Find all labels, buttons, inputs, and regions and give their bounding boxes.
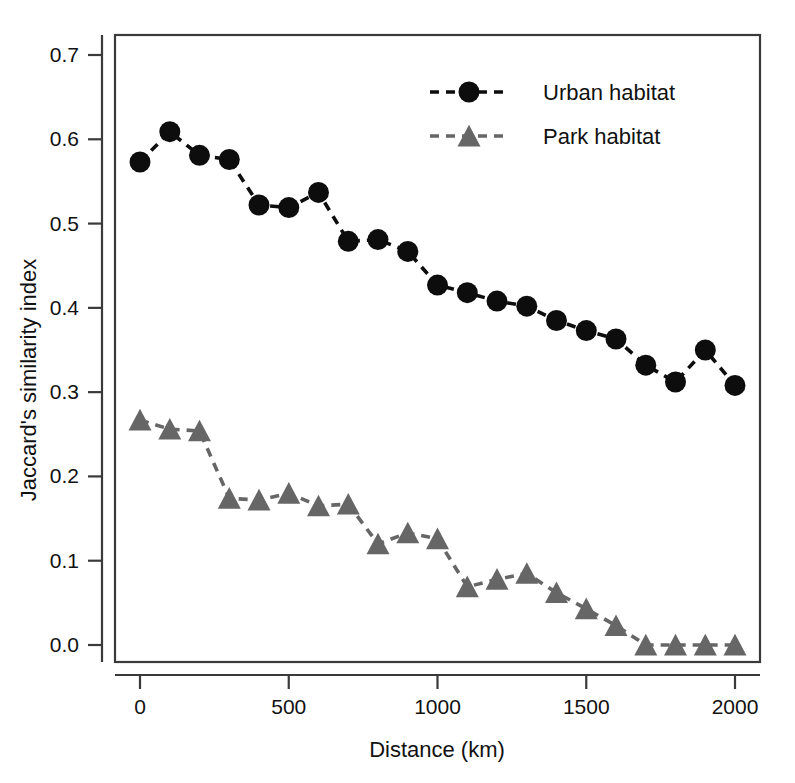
data-series-group: [129, 121, 747, 655]
data-point-park-1400: [545, 582, 568, 604]
data-point-park-600: [307, 495, 330, 517]
data-point-urban-1400: [546, 310, 567, 331]
y-tick-label-0.0: 0.0: [50, 633, 79, 656]
data-point-urban-1000: [427, 275, 448, 296]
series-urban: [130, 121, 746, 396]
legend-circle-icon: [459, 82, 480, 103]
y-tick-label-0.1: 0.1: [50, 549, 79, 572]
data-point-urban-1200: [487, 291, 508, 312]
y-tick-label-0.3: 0.3: [50, 380, 79, 403]
data-point-urban-1100: [457, 282, 478, 303]
plot-border: [115, 35, 760, 662]
data-point-park-900: [396, 522, 419, 544]
legend-item-urban: Urban habitat: [430, 80, 675, 105]
data-point-urban-800: [368, 229, 389, 250]
data-point-park-500: [277, 482, 300, 504]
data-point-urban-1700: [635, 355, 656, 376]
y-tick-label-0.6: 0.6: [50, 127, 79, 150]
jaccard-similarity-line-chart: 0500100015002000 0.00.10.20.30.40.50.60.…: [0, 0, 795, 783]
data-point-park-1700: [634, 634, 657, 656]
data-point-urban-1600: [606, 329, 627, 350]
data-point-urban-100: [159, 121, 180, 142]
data-point-urban-200: [189, 145, 210, 166]
legend-label-urban: Urban habitat: [543, 80, 675, 105]
data-point-park-1600: [605, 614, 628, 636]
data-point-urban-2000: [725, 375, 746, 396]
x-tick-label-1500: 1500: [563, 695, 610, 718]
chart-page: 0500100015002000 0.00.10.20.30.40.50.60.…: [0, 0, 795, 783]
x-axis-ticks: 0500100015002000: [115, 675, 760, 718]
data-point-urban-500: [278, 197, 299, 218]
chart-legend: Urban habitatPark habitat: [430, 80, 675, 149]
data-point-urban-400: [249, 195, 270, 216]
legend-label-park: Park habitat: [543, 124, 660, 149]
legend-triangle-icon: [458, 125, 481, 147]
data-point-park-700: [337, 493, 360, 515]
data-point-urban-0: [130, 152, 151, 173]
data-point-urban-600: [308, 182, 329, 203]
data-point-urban-700: [338, 231, 359, 252]
x-tick-label-1000: 1000: [414, 695, 461, 718]
data-point-urban-1800: [665, 372, 686, 393]
y-tick-label-0.5: 0.5: [50, 212, 79, 235]
data-point-urban-900: [397, 241, 418, 262]
data-point-park-0: [129, 409, 152, 431]
x-tick-label-0: 0: [134, 695, 146, 718]
data-point-park-1200: [486, 568, 509, 590]
y-tick-label-0.7: 0.7: [50, 43, 79, 66]
data-point-urban-1500: [576, 320, 597, 341]
y-axis-ticks: 0.00.10.20.30.40.50.60.7: [50, 35, 102, 662]
x-axis-title: Distance (km): [369, 737, 505, 762]
y-axis-title: Jaccard's similarity index: [16, 259, 41, 502]
data-point-park-400: [248, 489, 271, 511]
legend-item-park: Park habitat: [430, 124, 660, 149]
x-tick-label-500: 500: [271, 695, 306, 718]
plot-frame: [115, 35, 760, 662]
data-point-park-300: [218, 487, 241, 509]
data-point-park-1500: [575, 598, 598, 620]
data-point-urban-300: [219, 149, 240, 170]
y-tick-label-0.4: 0.4: [50, 296, 80, 319]
y-tick-label-0.2: 0.2: [50, 464, 79, 487]
data-point-urban-1300: [516, 296, 537, 317]
data-point-park-1300: [515, 562, 538, 584]
data-point-urban-1900: [695, 340, 716, 361]
series-park: [129, 409, 747, 656]
x-tick-label-2000: 2000: [712, 695, 759, 718]
